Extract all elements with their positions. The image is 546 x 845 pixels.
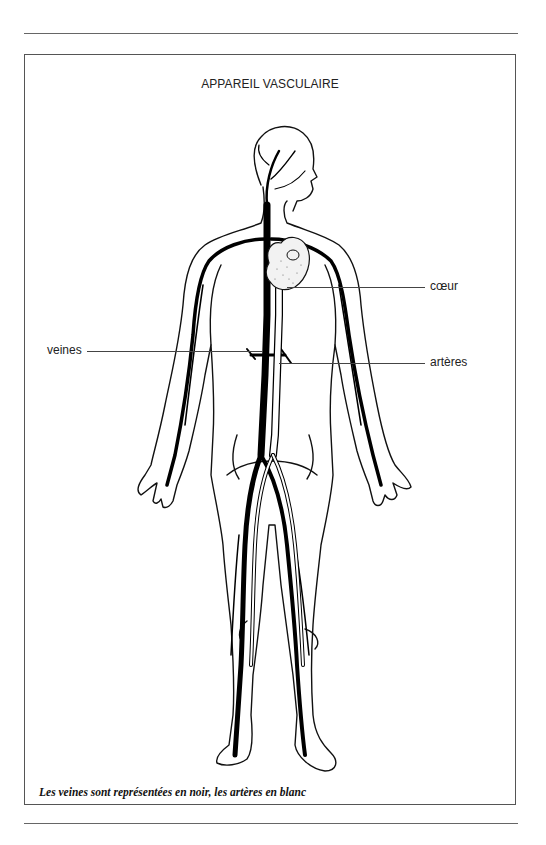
diagram-frame: APPAREIL VASCULAIRE <box>24 54 516 805</box>
label-veines: veines <box>47 343 82 357</box>
vascular-figure <box>25 55 517 806</box>
coeur-leader <box>287 287 425 288</box>
label-coeur: cœur <box>430 279 458 293</box>
diagram-caption: Les veines sont représentées en noir, le… <box>39 786 306 798</box>
label-arteres: artères <box>430 355 467 369</box>
bottom-rule <box>24 823 518 824</box>
veines-leader <box>87 351 263 352</box>
vena-cava <box>261 205 267 455</box>
top-rule <box>24 33 518 34</box>
heart-shape <box>266 237 309 289</box>
arteres-leader <box>279 363 425 364</box>
